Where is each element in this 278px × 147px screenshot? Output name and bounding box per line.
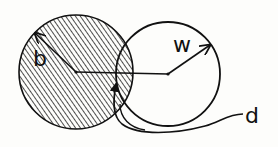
label-w: w bbox=[173, 32, 191, 57]
overlapping-circles-diagram: b w d bbox=[0, 0, 278, 147]
label-b: b bbox=[33, 46, 47, 71]
label-d: d bbox=[245, 103, 259, 128]
